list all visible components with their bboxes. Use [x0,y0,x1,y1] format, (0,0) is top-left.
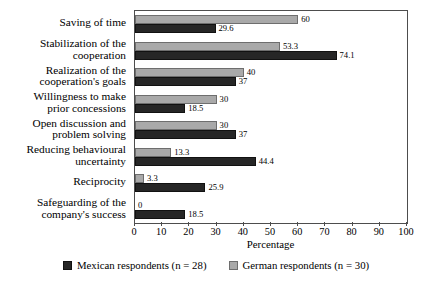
bar-german [135,174,144,183]
bar-mexican [135,104,185,113]
bar-value-label: 44.4 [256,157,274,166]
bar-value-label: 18.5 [185,210,203,219]
bar-german [135,95,217,104]
bar-value-label: 74.1 [337,51,355,60]
legend-swatch-icon [229,261,238,270]
bar-german [135,148,171,157]
bar-group: 4037 [135,64,407,91]
bar-mexican [135,24,216,33]
x-axis-tick-label: 90 [374,226,384,238]
bar-row: 60 [135,15,407,24]
x-axis-tick-label: 100 [398,226,413,238]
bar-value-label: 53.3 [280,42,298,51]
x-axis-tick-label: 20 [183,226,193,238]
bar-mexican [135,183,205,192]
bar-group: 018.5 [135,197,407,224]
x-axis-tick-label: 0 [131,226,136,238]
legend-item-german: German respondents (n = 30) [229,259,370,271]
bar-value-label: 37 [236,77,248,86]
bar-row: 40 [135,68,407,77]
legend-label: Mexican respondents (n = 28) [77,259,207,271]
bar-mexican [135,130,236,139]
bar-value-label: 37 [236,130,248,139]
legend-label: German respondents (n = 30) [243,259,370,271]
chart-legend: Mexican respondents (n = 28) German resp… [0,259,432,271]
bar-group: 6029.6 [135,11,407,38]
bar-mexican [135,51,337,60]
bar-german [135,42,280,51]
bar-rows: 6029.653.374.140373018.5303713.344.43.32… [135,11,407,223]
bar-row: 3.3 [135,174,407,183]
category-label: Stabilization of the cooperation [0,37,130,64]
x-axis-tick-label: 80 [346,226,356,238]
bar-row: 0 [135,201,407,210]
bar-group: 3018.5 [135,91,407,118]
bar-value-label: 0 [135,201,142,210]
bar-value-label: 29.6 [216,24,234,33]
bar-value-label: 18.5 [185,104,203,113]
bar-row: 74.1 [135,51,407,60]
bar-group: 13.344.4 [135,144,407,171]
x-axis: Percentage 0102030405060708090100 [134,222,407,252]
bar-row: 37 [135,130,407,139]
bar-german [135,15,298,24]
bar-row: 18.5 [135,210,407,219]
category-axis-labels: Saving of time Stabilization of the coop… [0,10,130,222]
x-axis-tick-label: 30 [210,226,220,238]
category-label: Willingness to make prior concessions [0,90,130,117]
category-label: Reciprocity [0,169,130,196]
bar-row: 37 [135,77,407,86]
bar-row: 18.5 [135,104,407,113]
bar-mexican [135,210,185,219]
grouped-bar-chart: Saving of time Stabilization of the coop… [0,0,432,285]
bar-row: 25.9 [135,183,407,192]
bar-value-label: 30 [217,121,229,130]
x-axis-tick-label: 70 [319,226,329,238]
bar-group: 53.374.1 [135,38,407,65]
x-axis-tick-label: 10 [156,226,166,238]
x-axis-title: Percentage [134,238,407,250]
bar-group: 3.325.9 [135,170,407,197]
bar-mexican [135,157,256,166]
bar-german [135,68,244,77]
legend-swatch-icon [63,261,72,270]
bar-row: 30 [135,95,407,104]
bar-group: 3037 [135,117,407,144]
bar-row: 30 [135,121,407,130]
bar-row: 29.6 [135,24,407,33]
bar-value-label: 13.3 [171,148,189,157]
category-label: Open discussion and problem solving [0,116,130,143]
bar-value-label: 3.3 [144,174,158,183]
x-axis-tick-label: 40 [238,226,248,238]
bar-row: 44.4 [135,157,407,166]
category-label: Safeguarding of the company's success [0,196,130,223]
bar-german [135,121,217,130]
legend-item-mexican: Mexican respondents (n = 28) [63,259,207,271]
x-axis-tick-label: 50 [265,226,275,238]
bar-value-label: 30 [217,95,229,104]
plot-area: 6029.653.374.140373018.5303713.344.43.32… [134,10,408,224]
bar-row: 53.3 [135,42,407,51]
bar-value-label: 25.9 [205,183,223,192]
category-label: Reducing behavioural uncertainty [0,143,130,170]
category-label: Saving of time [0,10,130,37]
x-axis-tick-label: 60 [292,226,302,238]
bar-mexican [135,77,236,86]
category-label: Realization of the cooperation's goals [0,63,130,90]
bar-value-label: 60 [298,15,310,24]
